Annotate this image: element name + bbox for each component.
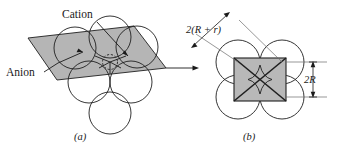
figure-root: Cation Anion (a) xyxy=(0,0,338,148)
edge-dimension-line xyxy=(191,12,282,62)
edge-dimension-label: 2(R + r) xyxy=(186,24,222,36)
caption-b: (b) xyxy=(243,131,256,143)
panel-a: Cation Anion (a) xyxy=(6,8,166,143)
panel-connector-arrow xyxy=(166,66,199,71)
caption-a: (a) xyxy=(74,131,87,143)
anion-sphere-bottom xyxy=(89,92,131,134)
figure-canvas: Cation Anion (a) xyxy=(0,0,338,148)
cation-label: Cation xyxy=(62,8,93,20)
height-dimension-label: 2R xyxy=(304,74,316,85)
anion-label: Anion xyxy=(6,66,35,78)
panel-b: 2(R + r) 2R (b) xyxy=(186,12,327,143)
